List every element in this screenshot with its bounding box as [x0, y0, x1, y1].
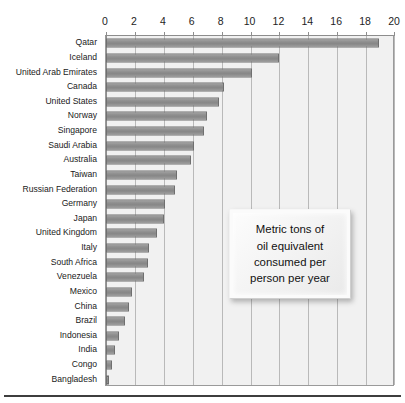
- bar: [106, 331, 119, 340]
- bar: [106, 97, 219, 106]
- category-label: United Arab Emirates: [16, 66, 97, 77]
- category-label: Germany: [62, 198, 97, 209]
- x-tick-label-18: 18: [359, 14, 371, 28]
- category-label: Indonesia: [60, 329, 97, 340]
- bar: [106, 229, 157, 238]
- category-label: Singapore: [58, 125, 97, 136]
- x-tick-label-14: 14: [301, 14, 313, 28]
- x-tick-label-2: 2: [131, 14, 137, 28]
- bar: [106, 273, 144, 282]
- bar: [106, 361, 112, 370]
- bar: [106, 287, 132, 296]
- bar: [106, 39, 379, 48]
- category-label: Brazil: [76, 315, 98, 326]
- category-label: Saudi Arabia: [48, 139, 97, 150]
- bottom-divider-rule: [4, 395, 401, 397]
- bar: [106, 375, 109, 384]
- x-tickmark-20: [394, 32, 395, 36]
- y-axis-category-labels: QatarIcelandUnited Arab EmiratesCanadaUn…: [0, 35, 101, 386]
- units-callout-text: Metric tons of oil equivalent consumed p…: [250, 221, 330, 287]
- category-label: Italy: [81, 242, 97, 253]
- x-tick-label-0: 0: [102, 14, 108, 28]
- category-label: South Africa: [51, 256, 97, 267]
- category-label: Bangladesh: [52, 373, 97, 384]
- bar: [106, 83, 224, 92]
- bar: [106, 302, 129, 311]
- bar: [106, 185, 175, 194]
- x-tick-label-4: 4: [160, 14, 166, 28]
- category-label: Mexico: [70, 285, 97, 296]
- x-tick-label-12: 12: [273, 14, 285, 28]
- bar: [106, 156, 191, 165]
- bar: [106, 317, 125, 326]
- category-label: Venezuela: [57, 271, 97, 282]
- bar-chart: 02468101214161820 QatarIcelandUnited Ara…: [0, 0, 405, 403]
- bar: [106, 214, 164, 223]
- category-label: Japan: [74, 212, 97, 223]
- category-label: Norway: [68, 110, 97, 121]
- category-label: India: [78, 344, 97, 355]
- gridline-20: [394, 36, 395, 385]
- bar: [106, 141, 194, 150]
- bar: [106, 258, 148, 267]
- bar: [106, 200, 165, 209]
- bar: [106, 127, 204, 136]
- x-axis-tick-labels: 02468101214161820: [0, 14, 405, 30]
- category-label: China: [75, 300, 97, 311]
- category-label: Canada: [67, 81, 97, 92]
- x-tick-label-16: 16: [330, 14, 342, 28]
- category-label: United States: [45, 95, 97, 106]
- bar: [106, 68, 252, 77]
- category-label: Australia: [64, 154, 97, 165]
- x-tick-label-8: 8: [218, 14, 224, 28]
- x-tick-label-10: 10: [244, 14, 256, 28]
- category-label: Qatar: [76, 37, 98, 48]
- category-label: Congo: [72, 359, 97, 370]
- category-label: Iceland: [69, 51, 97, 62]
- bar: [106, 244, 149, 253]
- category-label: Russian Federation: [22, 183, 97, 194]
- bar: [106, 112, 207, 121]
- bar: [106, 53, 279, 62]
- category-label: Taiwan: [70, 168, 97, 179]
- bar: [106, 170, 177, 179]
- x-tick-label-20: 20: [388, 14, 400, 28]
- units-callout-box: Metric tons of oil equivalent consumed p…: [229, 209, 351, 299]
- x-tick-label-6: 6: [189, 14, 195, 28]
- category-label: United Kingdom: [36, 227, 97, 238]
- bar: [106, 346, 115, 355]
